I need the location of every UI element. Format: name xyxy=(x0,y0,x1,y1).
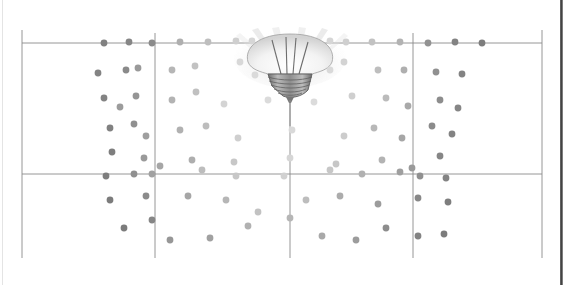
illumination-dot xyxy=(265,97,272,104)
illumination-dot xyxy=(452,39,459,46)
illumination-dot xyxy=(143,193,150,200)
illumination-dot xyxy=(349,93,356,100)
illumination-dot xyxy=(371,125,378,132)
illumination-dot xyxy=(135,65,142,72)
illumination-dot xyxy=(233,173,240,180)
illumination-dot xyxy=(167,237,174,244)
illumination-dot xyxy=(203,123,210,130)
illumination-dot xyxy=(479,40,486,47)
illumination-dot xyxy=(425,40,432,47)
illumination-dot xyxy=(433,69,440,76)
illumination-dot xyxy=(177,39,184,46)
illumination-dot xyxy=(249,38,256,45)
illumination-dot xyxy=(327,67,334,74)
illumination-dot xyxy=(287,155,294,162)
illumination-dot xyxy=(185,193,192,200)
illumination-dot xyxy=(397,169,404,176)
illumination-dot xyxy=(341,133,348,140)
illumination-dot xyxy=(101,95,108,102)
illumination-dot xyxy=(169,67,176,74)
illumination-dot xyxy=(405,103,412,110)
illumination-dot xyxy=(455,105,462,112)
illumination-dot xyxy=(205,39,212,46)
illumination-dot xyxy=(333,161,340,168)
illumination-dot xyxy=(193,89,200,96)
illumination-dot xyxy=(383,225,390,232)
illumination-dot xyxy=(343,39,350,46)
illumination-dot xyxy=(223,197,230,204)
illumination-dot xyxy=(375,201,382,208)
illumination-dot xyxy=(131,121,138,128)
illumination-dot xyxy=(133,93,140,100)
illumination-dot xyxy=(399,135,406,142)
illumination-dot xyxy=(169,97,176,104)
illumination-dot xyxy=(141,155,148,162)
illumination-dot xyxy=(149,40,156,47)
illumination-dot xyxy=(337,193,344,200)
illumination-dot xyxy=(449,131,456,138)
illumination-dot xyxy=(437,153,444,160)
illumination-dot xyxy=(237,59,244,66)
illumination-dot xyxy=(341,59,348,66)
illumination-dot xyxy=(379,157,386,164)
illumination-dot xyxy=(95,70,102,77)
illumination-dot xyxy=(126,39,133,46)
illumination-dot xyxy=(149,217,156,224)
illumination-dot xyxy=(131,171,138,178)
illumination-dot xyxy=(177,127,184,134)
illumination-dot xyxy=(207,235,214,242)
illumination-dot xyxy=(397,39,404,46)
illumination-dot xyxy=(415,195,422,202)
illumination-dot xyxy=(383,95,390,102)
illumination-dot xyxy=(281,173,288,180)
illumination-dot xyxy=(459,71,466,78)
illumination-dot xyxy=(443,175,450,182)
illumination-dot xyxy=(327,38,334,45)
illumination-dot xyxy=(287,215,294,222)
illumination-dot xyxy=(107,197,114,204)
scan-edge-right xyxy=(560,0,563,285)
illumination-dot xyxy=(327,167,334,174)
illumination-dot xyxy=(369,39,376,46)
illumination-dot xyxy=(437,97,444,104)
illumination-dot xyxy=(353,237,360,244)
illumination-dot xyxy=(189,157,196,164)
illumination-dot xyxy=(157,163,164,170)
illumination-dot xyxy=(245,223,252,230)
figure-page xyxy=(0,0,586,285)
illumination-dot xyxy=(101,40,108,47)
illumination-dot xyxy=(149,171,156,178)
illumination-dot xyxy=(123,67,130,74)
illumination-dot xyxy=(252,72,259,79)
illumination-dot xyxy=(199,167,206,174)
illumination-dot xyxy=(417,173,424,180)
illumination-dot xyxy=(233,38,240,45)
illumination-dot xyxy=(319,233,326,240)
illumination-dot xyxy=(445,199,452,206)
illumination-dot xyxy=(109,149,116,156)
illumination-dot xyxy=(192,63,199,70)
illumination-dot xyxy=(255,209,262,216)
illumination-dot xyxy=(121,225,128,232)
illumination-dot xyxy=(375,67,382,74)
illumination-dot xyxy=(401,67,408,74)
illumination-dot xyxy=(231,159,238,166)
bulb-screw-base xyxy=(268,74,312,103)
illumination-diagram xyxy=(0,0,586,285)
illumination-dot xyxy=(107,125,114,132)
illumination-dot xyxy=(359,171,366,178)
illumination-dot xyxy=(289,127,296,134)
illumination-dot xyxy=(441,231,448,238)
illumination-dot xyxy=(409,165,416,172)
illumination-dot xyxy=(235,135,242,142)
illumination-dot xyxy=(429,123,436,130)
illumination-dot xyxy=(117,104,124,111)
illumination-dot xyxy=(415,233,422,240)
illumination-dot xyxy=(143,133,150,140)
illumination-dot xyxy=(221,101,228,108)
illumination-dot xyxy=(103,173,110,180)
bulb-glass xyxy=(247,34,332,74)
illumination-dot xyxy=(311,99,318,106)
illumination-dot xyxy=(303,197,310,204)
